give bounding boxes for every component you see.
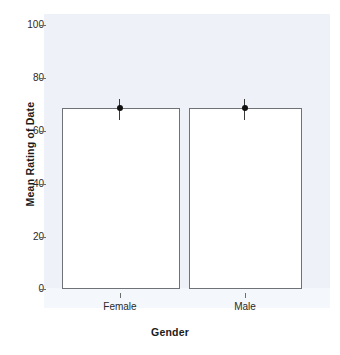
x-tick-mark-male	[245, 293, 246, 298]
y-tick-mark-40	[40, 184, 46, 185]
x-tick-label-female: Female	[75, 301, 165, 312]
bar-chart-figure: 100 80 60 40 20 0 Mean Rating of Date Fe…	[0, 0, 340, 355]
y-tick-label-20: 20	[0, 230, 44, 244]
y-tick-label-60: 60	[0, 124, 44, 138]
x-tick-mark-female	[120, 293, 121, 298]
error-bar-marker-female	[117, 105, 123, 111]
y-tick-mark-100	[40, 25, 46, 26]
bar-male[interactable]	[189, 108, 302, 289]
y-tick-label-100: 100	[0, 18, 44, 32]
y-tick-mark-80	[40, 78, 46, 79]
y-axis-ticks: 100 80 60 40 20 0	[0, 0, 44, 355]
y-tick-label-0: 0	[0, 282, 44, 296]
y-tick-mark-0	[40, 289, 46, 290]
y-tick-label-80: 80	[0, 71, 44, 85]
x-tick-label-male: Male	[200, 301, 290, 312]
y-axis-title: Mean Rating of Date	[24, 54, 36, 254]
error-bar-marker-male	[242, 105, 248, 111]
bar-female[interactable]	[62, 108, 180, 289]
x-axis-title: Gender	[0, 326, 340, 338]
y-tick-mark-60	[40, 131, 46, 132]
y-tick-label-40: 40	[0, 177, 44, 191]
y-tick-mark-20	[40, 237, 46, 238]
